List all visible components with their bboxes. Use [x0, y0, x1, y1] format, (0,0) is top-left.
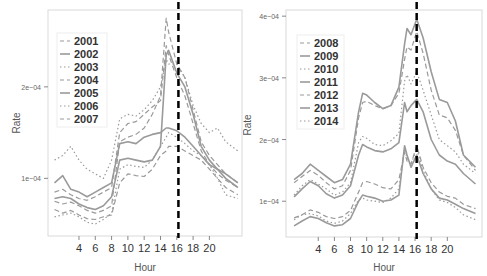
- series-line-2001: [55, 146, 238, 219]
- legend-item-2002: 2002: [74, 48, 98, 60]
- svg-text:14: 14: [154, 242, 166, 254]
- left-x-axis-label: Hour: [134, 262, 156, 273]
- svg-text:3e−04: 3e−04: [259, 75, 279, 82]
- legend-item-2007: 2007: [74, 113, 98, 125]
- legend-item-2011: 2011: [314, 76, 338, 88]
- svg-text:16: 16: [409, 243, 421, 255]
- left-y-axis-label: Rate: [11, 112, 22, 134]
- right-legend: 2008200920102011201220132014: [297, 35, 344, 129]
- svg-text:6: 6: [331, 243, 337, 255]
- svg-text:4e−04: 4e−04: [259, 13, 279, 20]
- legend-item-2005: 2005: [74, 87, 98, 99]
- svg-text:2e−04: 2e−04: [21, 84, 41, 91]
- left-x-axis: 468101214161820: [76, 236, 216, 254]
- svg-text:1e−04: 1e−04: [21, 175, 41, 182]
- legend-item-2001: 2001: [74, 35, 98, 47]
- left-y-axis: 1e−042e−04: [21, 84, 48, 182]
- svg-text:20: 20: [203, 242, 215, 254]
- right-y-axis: 1e−042e−043e−044e−04: [259, 13, 286, 205]
- svg-text:20: 20: [441, 243, 453, 255]
- right-chart-panel: 1e−042e−043e−044e−04 468101214161820 200…: [243, 0, 487, 276]
- series-line-2014: [294, 149, 475, 224]
- svg-text:6: 6: [92, 242, 98, 254]
- svg-text:8: 8: [109, 242, 115, 254]
- legend-item-2009: 2009: [314, 50, 338, 62]
- left-legend: 2001200220032004200520062007: [57, 33, 107, 127]
- svg-text:18: 18: [187, 242, 199, 254]
- legend-item-2004: 2004: [74, 74, 99, 86]
- legend-item-2008: 2008: [314, 37, 338, 49]
- right-x-axis: 468101214161820: [315, 237, 453, 255]
- svg-text:14: 14: [393, 243, 405, 255]
- svg-text:4: 4: [315, 243, 321, 255]
- series-line-2008: [294, 146, 475, 219]
- left-chart-panel: 1e−042e−04 468101214161820 2001200220032…: [0, 0, 243, 276]
- right-x-axis-label: Hour: [373, 262, 395, 273]
- left-chart: 1e−042e−04 468101214161820 2001200220032…: [0, 0, 243, 276]
- legend-item-2013: 2013: [314, 102, 338, 114]
- legend-item-2003: 2003: [74, 61, 98, 73]
- svg-text:2e−04: 2e−04: [259, 137, 279, 144]
- right-chart: 1e−042e−043e−044e−04 468101214161820 200…: [243, 0, 487, 276]
- series-line-2006: [55, 133, 238, 225]
- svg-text:1e−04: 1e−04: [259, 198, 279, 205]
- legend-item-2010: 2010: [314, 63, 338, 75]
- svg-text:8: 8: [347, 243, 353, 255]
- svg-text:10: 10: [122, 242, 134, 254]
- legend-item-2012: 2012: [314, 89, 338, 101]
- series-line-2013: [294, 146, 475, 226]
- svg-text:18: 18: [425, 243, 437, 255]
- svg-text:4: 4: [76, 242, 82, 254]
- right-y-axis-label: Rate: [243, 114, 253, 136]
- svg-text:12: 12: [138, 242, 150, 254]
- svg-text:10: 10: [361, 243, 373, 255]
- svg-text:16: 16: [171, 242, 183, 254]
- svg-text:12: 12: [377, 243, 389, 255]
- legend-item-2006: 2006: [74, 100, 98, 112]
- legend-item-2014: 2014: [314, 115, 339, 127]
